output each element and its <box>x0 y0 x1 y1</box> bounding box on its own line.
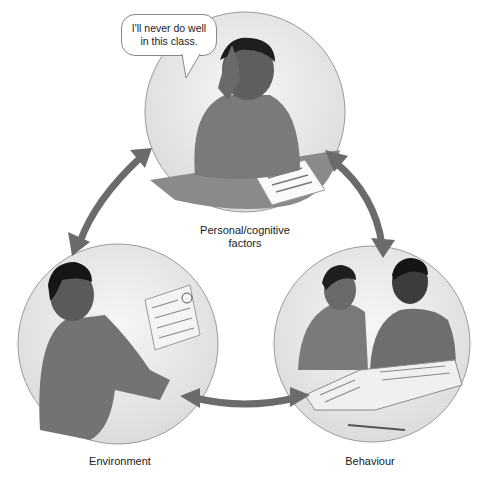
speech-bubble: I'll never do well in this class. <box>121 14 217 56</box>
label-behaviour: Behaviour <box>320 455 420 468</box>
label-environment: Environment <box>70 455 170 468</box>
arrow-personal-behaviour <box>335 162 382 245</box>
speech-bubble-line2: in this class. <box>132 35 206 48</box>
label-personal-line2: factors <box>190 237 300 250</box>
node-environment <box>18 244 218 444</box>
label-personal: Personal/cognitive factors <box>190 224 300 250</box>
arrow-personal-environment <box>80 158 140 242</box>
label-personal-line1: Personal/cognitive <box>190 224 300 237</box>
speech-bubble-tail <box>180 54 210 84</box>
speech-bubble-line1: I'll never do well <box>132 22 206 35</box>
node-behaviour <box>274 246 470 442</box>
arrow-environment-behaviour <box>195 398 295 404</box>
